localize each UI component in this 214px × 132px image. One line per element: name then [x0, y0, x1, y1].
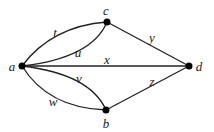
edge-label-v: v — [76, 72, 82, 85]
node-label-d: d — [196, 60, 203, 73]
node-label-b: b — [103, 117, 110, 130]
edge-u — [22, 22, 107, 66]
edge-z — [106, 66, 189, 110]
edge-label-w: w — [49, 95, 58, 108]
edge-label-x: x — [104, 53, 110, 66]
node-c — [104, 19, 111, 26]
edge-w — [22, 66, 106, 110]
edge-label-u: u — [75, 46, 82, 59]
edge-y — [107, 22, 189, 66]
node-label-c: c — [103, 4, 109, 17]
edge-label-z: z — [149, 75, 154, 88]
node-b — [103, 107, 110, 114]
edge-label-y: y — [149, 31, 155, 44]
node-label-a: a — [9, 60, 16, 73]
node-d — [186, 63, 193, 70]
node-a — [19, 63, 26, 70]
edge-t — [22, 22, 107, 66]
edge-v — [22, 66, 106, 110]
edge-label-t: t — [53, 26, 57, 39]
